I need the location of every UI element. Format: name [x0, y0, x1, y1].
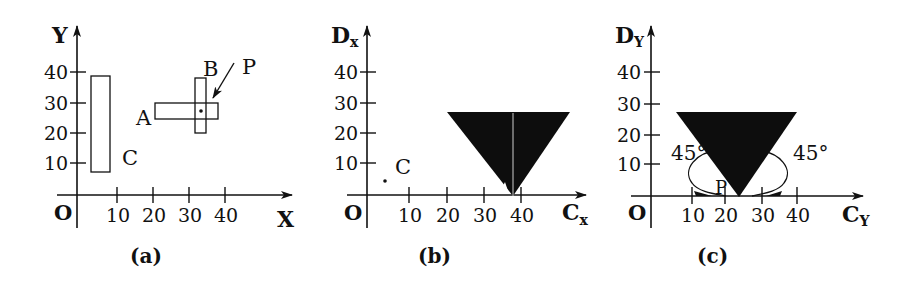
- point-c: [383, 179, 387, 183]
- x-tick-label: 10: [398, 204, 422, 226]
- x-tick-label: 10: [106, 204, 130, 226]
- y-axis-label: Dx: [331, 22, 359, 50]
- label-p: P: [715, 177, 727, 198]
- caption-a: (a): [130, 244, 162, 268]
- x-tick-label: 10: [681, 204, 705, 226]
- x-axis-label: Cx: [562, 199, 589, 228]
- label-a: A: [135, 106, 152, 130]
- x-tick-label: 30: [178, 204, 202, 226]
- y-tick-label: 40: [617, 61, 641, 83]
- angle-label-right: 45°: [793, 141, 828, 165]
- y-tick-label: 30: [334, 92, 358, 114]
- label-c: C: [122, 146, 138, 170]
- panel-b: 40 30 20 10 10 20 30 40 O Dx Cx C (b): [331, 22, 589, 268]
- rectangle-b: [195, 78, 206, 133]
- y-tick-label: 40: [334, 61, 358, 83]
- x-tick-label: 30: [751, 204, 775, 226]
- y-axis-label: Y: [51, 22, 68, 48]
- y-axis-label: DY: [615, 22, 645, 50]
- y-ticks: [70, 72, 86, 163]
- x-tick-label: 20: [436, 204, 460, 226]
- origin-label: O: [54, 200, 72, 225]
- y-tick-label: 20: [334, 122, 358, 144]
- x-axis-label: CY: [842, 201, 871, 229]
- x-tick-label: 30: [473, 204, 497, 226]
- x-axis-label: X: [277, 206, 295, 232]
- y-ticks: [360, 72, 376, 163]
- y-tick-label: 10: [617, 153, 641, 175]
- y-tick-label: 10: [334, 152, 358, 174]
- caption-b: (b): [418, 244, 451, 268]
- panel-c: 40 30 20 10 10 20 30 40 O DY CY 45° 45° …: [615, 22, 871, 268]
- origin-label: O: [344, 200, 362, 225]
- x-tick-label: 40: [510, 204, 534, 226]
- origin-label: O: [628, 200, 646, 225]
- y-tick-label: 20: [44, 122, 68, 144]
- label-p: P: [242, 55, 256, 79]
- filled-triangle: [447, 112, 570, 196]
- y-ticks: [644, 72, 660, 164]
- point-p: [199, 109, 203, 113]
- label-c: C: [395, 155, 411, 179]
- panel-a: 40 30 20 10 10 20 30 40 O Y X C A B P (a…: [44, 22, 295, 268]
- rectangle-c: [91, 76, 110, 172]
- angle-wedge-left: [694, 191, 712, 196]
- y-tick-label: 40: [44, 61, 68, 83]
- angle-label-left: 45°: [671, 141, 706, 165]
- rectangle-a: [155, 103, 218, 119]
- x-tick-label: 40: [214, 204, 238, 226]
- y-tick-label: 30: [44, 92, 68, 114]
- y-tick-label: 10: [44, 152, 68, 174]
- x-tick-label: 20: [142, 204, 166, 226]
- x-tick-label: 40: [786, 204, 810, 226]
- y-tick-label: 30: [617, 93, 641, 115]
- label-b: B: [203, 57, 218, 81]
- y-tick-label: 20: [617, 124, 641, 146]
- caption-c: (c): [697, 244, 728, 268]
- x-tick-label: 20: [714, 204, 738, 226]
- diagram-canvas: 40 30 20 10 10 20 30 40 O Y X C A B P (a…: [0, 0, 915, 293]
